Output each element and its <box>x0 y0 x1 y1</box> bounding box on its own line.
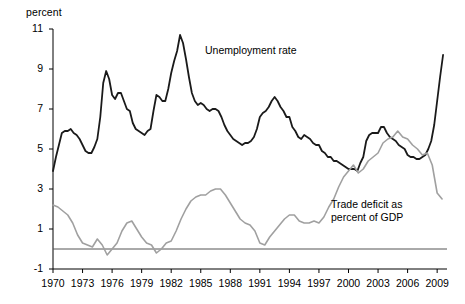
y-tick-label: 9 <box>21 62 43 74</box>
y-tick-label: -1 <box>21 262 43 274</box>
y-tick-label: 7 <box>21 102 43 114</box>
y-tick-label: 1 <box>21 222 43 234</box>
trade-deficit-label: Trade deficit as percent of GDP <box>331 198 403 224</box>
axis-lines <box>53 29 447 269</box>
y-tick-label: 3 <box>21 182 43 194</box>
y-tick-label: 5 <box>21 142 43 154</box>
series-line <box>53 131 442 255</box>
y-tick-label: 11 <box>21 22 43 34</box>
chart-container: percent -11357911 1970197319761979198219… <box>0 0 465 304</box>
unemployment-rate-label: Unemployment rate <box>205 44 297 57</box>
x-tick-label: 2009 <box>417 277 457 289</box>
